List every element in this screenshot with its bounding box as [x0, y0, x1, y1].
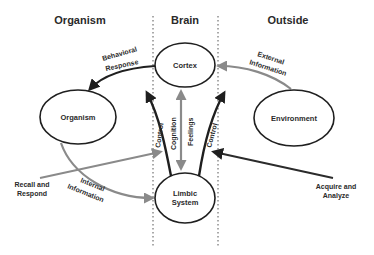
cognition-label: Cognition: [170, 117, 178, 150]
cortex-node: Cortex: [155, 43, 215, 87]
limbic-label-line2: System: [172, 198, 199, 207]
acquire-analyze-arrow: [214, 152, 333, 178]
acquire-analyze-label-2: Analyze: [323, 192, 350, 200]
recall-respond-label-2: Respond: [17, 190, 47, 198]
brain-organism-diagram: Organism Brain Outside Behavioral Respon…: [0, 0, 374, 255]
feelings-label: Feelings: [187, 117, 195, 146]
column-header-brain: Brain: [171, 14, 199, 26]
environment-label: Environment: [271, 114, 317, 123]
behavioral-response-arrow: [90, 66, 155, 89]
limbic-system-node: Limbic System: [155, 173, 215, 223]
organism-label: Organism: [60, 113, 95, 122]
environment-node: Environment: [254, 90, 334, 146]
column-header-outside: Outside: [268, 14, 309, 26]
cortex-label: Cortex: [173, 61, 198, 70]
organism-node: Organism: [40, 90, 116, 144]
acquire-analyze-label: Acquire and: [316, 183, 356, 191]
limbic-label-line1: Limbic: [173, 189, 197, 198]
control-right-label: Control: [205, 122, 218, 148]
column-header-organism: Organism: [54, 14, 106, 26]
recall-respond-label: Recall and: [14, 181, 49, 188]
recall-respond-arrow: [40, 152, 160, 178]
